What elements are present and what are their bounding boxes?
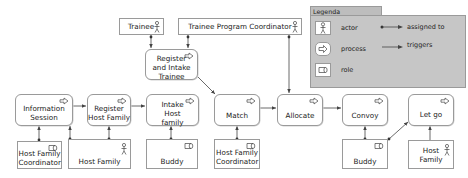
process-label: Let go: [420, 110, 442, 119]
legend: Legenda actor process role assigned to t…: [310, 6, 466, 88]
legend-actor-symbol: [315, 21, 331, 35]
process-let-go[interactable]: Let go: [408, 94, 454, 126]
legend-role-label: role: [341, 66, 353, 74]
actor-icon: [292, 21, 298, 33]
actor-icon: [444, 144, 450, 156]
process-icon: [316, 43, 330, 55]
role-buddy-1[interactable]: Buddy: [146, 139, 198, 169]
actor-icon: [121, 143, 127, 155]
role-icon: [316, 64, 330, 76]
process-intake-host-family[interactable]: Intake Host family: [146, 94, 199, 126]
legend-assigned-to-label: assigned to: [407, 23, 445, 31]
role-label: Buddy: [161, 157, 184, 166]
process-icon: [246, 97, 256, 105]
process-label: Convoy: [352, 111, 379, 120]
actor-label: Trainee: [128, 22, 154, 31]
role-label: Buddy: [354, 157, 377, 166]
process-icon: [309, 97, 319, 105]
process-match[interactable]: Match: [214, 94, 260, 126]
process-label: Information Session: [22, 104, 66, 122]
actor-trainee-program-coordinator[interactable]: Trainee Program Coordinator: [178, 18, 302, 35]
role-host-family-coordinator-1[interactable]: Host Family Coordinator: [17, 141, 62, 169]
process-allocate[interactable]: Allocate: [277, 94, 323, 126]
edge-hfc1-assigned-info: [38, 126, 41, 141]
legend-triggers-label: triggers: [407, 41, 432, 49]
process-icon: [440, 97, 450, 105]
actor-icon: [154, 21, 160, 33]
process-icon: [184, 52, 194, 60]
role-icon: [246, 142, 256, 150]
edge-register-trainee-triggers-match: [197, 76, 215, 94]
actor-icon: [316, 22, 330, 34]
process-icon: [59, 97, 69, 105]
process-label: Match: [226, 111, 248, 120]
process-label: Allocate: [286, 111, 315, 120]
actor-host-family-2[interactable]: Host Family: [408, 140, 454, 169]
legend-actor-label: actor: [341, 24, 358, 32]
role-icon: [48, 144, 58, 152]
actor-trainee[interactable]: Trainee: [119, 18, 164, 35]
process-convoy[interactable]: Convoy: [342, 94, 388, 126]
legend-relation-arrows: [379, 21, 405, 51]
process-information-session[interactable]: Information Session: [15, 94, 73, 126]
legend-process-symbol: [315, 42, 331, 56]
legend-body: actor process role assigned to triggers: [310, 15, 466, 88]
edge-buddy2-assigned-letgo: [388, 122, 408, 140]
legend-process-label: process: [341, 45, 366, 53]
legend-role-symbol: [315, 63, 331, 77]
process-register-host-family[interactable]: Register Host Family: [87, 94, 131, 126]
role-icon: [184, 142, 194, 150]
process-icon: [185, 97, 195, 105]
actor-label: Host Family: [416, 146, 446, 164]
process-label: Register Host Family: [88, 104, 130, 122]
process-icon: [374, 97, 384, 105]
process-icon: [117, 97, 127, 105]
role-host-family-coordinator-2[interactable]: Host Family Coordinator: [214, 139, 260, 169]
edge-tpc-assigned-register: [187, 35, 190, 48]
edge-trainee-assigned: [150, 35, 153, 48]
actor-label: Host Family: [79, 157, 121, 166]
process-register-intake-trainee[interactable]: Register and Intake Trainee: [145, 49, 198, 80]
role-buddy-2[interactable]: Buddy: [342, 139, 388, 169]
actor-label: Trainee Program Coordinator: [188, 22, 291, 31]
role-label: Host Family Coordinator: [216, 148, 258, 166]
actor-host-family-1[interactable]: Host Family: [68, 139, 131, 169]
edge-tpc-assigned-allocate: [288, 35, 291, 93]
role-icon: [374, 142, 384, 150]
